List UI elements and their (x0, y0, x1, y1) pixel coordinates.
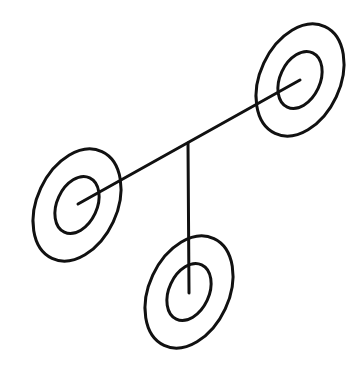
edges (78, 80, 300, 293)
diagram-canvas (0, 0, 362, 376)
edge-line (188, 143, 189, 293)
